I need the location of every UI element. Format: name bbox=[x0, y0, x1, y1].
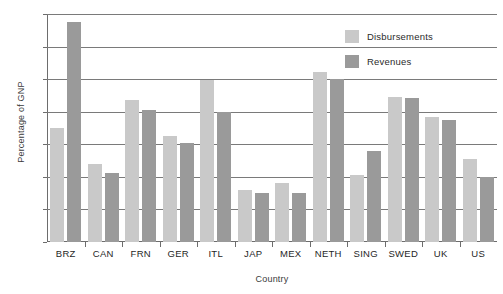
x-tick-mark bbox=[160, 242, 161, 247]
x-tick-mark bbox=[272, 242, 273, 247]
x-category-label-swed: SWED bbox=[385, 248, 423, 259]
bar-itl-disbursements bbox=[200, 80, 214, 242]
bar-swed-revenues bbox=[405, 98, 419, 242]
x-category-label-sing: SING bbox=[347, 248, 385, 259]
y-axis-title: Percentage of GNP bbox=[16, 47, 26, 197]
bar-group bbox=[85, 14, 123, 242]
x-category-label-uk: UK bbox=[422, 248, 460, 259]
bar-can-disbursements bbox=[88, 164, 102, 242]
bar-sing-revenues bbox=[367, 151, 381, 242]
x-tick-mark bbox=[422, 242, 423, 247]
legend-swatch-revenues bbox=[345, 55, 359, 68]
legend-swatch-disbursements bbox=[345, 30, 359, 43]
x-tick-mark bbox=[197, 242, 198, 247]
x-category-label-us: US bbox=[460, 248, 498, 259]
x-category-label-jap: JAP bbox=[235, 248, 273, 259]
bar-jap-revenues bbox=[255, 193, 269, 242]
bar-brz-revenues bbox=[67, 22, 81, 242]
bar-can-revenues bbox=[105, 173, 119, 242]
bar-group bbox=[47, 14, 85, 242]
x-category-label-brz: BRZ bbox=[47, 248, 85, 259]
bar-ger-revenues bbox=[180, 143, 194, 242]
legend-label-revenues: Revenues bbox=[367, 56, 411, 67]
bar-neth-revenues bbox=[330, 79, 344, 242]
bar-sing-disbursements bbox=[350, 175, 364, 242]
x-axis-title: Country bbox=[47, 274, 497, 284]
x-category-label-ger: GER bbox=[160, 248, 198, 259]
bar-group bbox=[310, 14, 348, 242]
bar-mex-disbursements bbox=[275, 183, 289, 242]
x-tick-mark bbox=[235, 242, 236, 247]
x-tick-mark bbox=[460, 242, 461, 247]
bar-group bbox=[197, 14, 235, 242]
x-tick-mark bbox=[385, 242, 386, 247]
x-tick-mark bbox=[310, 242, 311, 247]
bar-swed-disbursements bbox=[388, 97, 402, 242]
x-tick-mark bbox=[85, 242, 86, 247]
chart-legend: Disbursements Revenues bbox=[345, 28, 433, 78]
legend-item-revenues: Revenues bbox=[345, 53, 433, 69]
bar-group bbox=[122, 14, 160, 242]
x-category-label-itl: ITL bbox=[197, 248, 235, 259]
bar-group bbox=[235, 14, 273, 242]
bar-uk-revenues bbox=[442, 120, 456, 242]
bar-chart: Percentage of GNP 010203040506070 BRZCAN… bbox=[0, 0, 503, 294]
bar-us-revenues bbox=[480, 177, 494, 242]
x-tick-mark bbox=[347, 242, 348, 247]
x-category-label-mex: MEX bbox=[272, 248, 310, 259]
x-category-label-neth: NETH bbox=[310, 248, 348, 259]
bar-mex-revenues bbox=[292, 193, 306, 242]
x-category-label-frn: FRN bbox=[122, 248, 160, 259]
bar-group bbox=[272, 14, 310, 242]
legend-item-disbursements: Disbursements bbox=[345, 28, 433, 44]
x-tick-mark bbox=[122, 242, 123, 247]
x-category-label-can: CAN bbox=[85, 248, 123, 259]
bar-uk-disbursements bbox=[425, 117, 439, 242]
legend-label-disbursements: Disbursements bbox=[367, 31, 433, 42]
bar-group bbox=[460, 14, 498, 242]
bar-us-disbursements bbox=[463, 159, 477, 242]
bar-neth-disbursements bbox=[313, 72, 327, 242]
bar-frn-revenues bbox=[142, 110, 156, 242]
bar-jap-disbursements bbox=[238, 190, 252, 242]
bar-brz-disbursements bbox=[50, 128, 64, 242]
bar-group bbox=[160, 14, 198, 242]
bar-frn-disbursements bbox=[125, 100, 139, 242]
bar-itl-revenues bbox=[217, 112, 231, 242]
bar-ger-disbursements bbox=[163, 136, 177, 243]
y-tick-mark bbox=[43, 242, 47, 243]
